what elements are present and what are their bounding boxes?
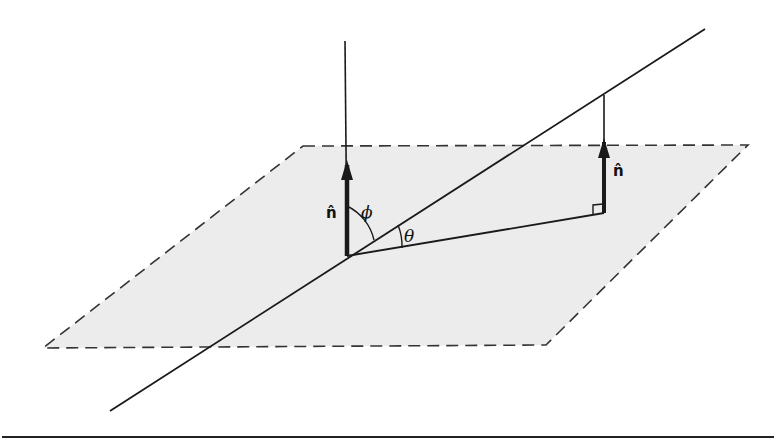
- plane-line-angle-diagram: n̂ n̂ ϕ θ: [0, 0, 776, 442]
- normal-label-right: n̂: [613, 162, 624, 180]
- phi-label: ϕ: [361, 202, 373, 222]
- bottom-border: [2, 436, 774, 438]
- normal-label-left: n̂: [326, 204, 337, 222]
- plane: [43, 145, 748, 348]
- theta-label: θ: [404, 226, 414, 246]
